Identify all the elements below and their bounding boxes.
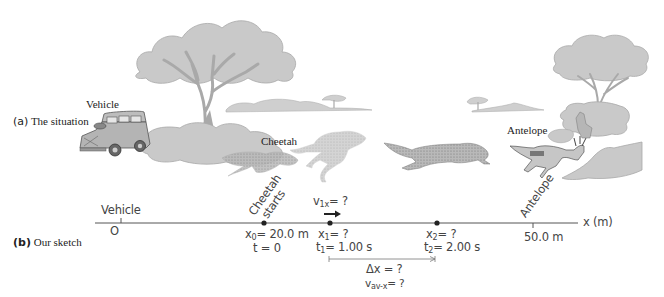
point-x0-dot [261, 220, 266, 225]
cheetah-leaping-icon [290, 131, 366, 182]
vehicle-icon [80, 111, 150, 156]
cheetah-label: Cheetah [261, 135, 297, 147]
panel-b-letter: (b) [13, 236, 31, 249]
origin-symbol: O [110, 224, 119, 238]
t2-label: t2= 2.00 s [424, 240, 480, 255]
origin-vehicle-label: Vehicle [101, 203, 141, 217]
panel-a-caption: (a) The situation [13, 115, 89, 128]
panel-b-title: Our sketch [34, 236, 82, 248]
point-x2-dot [434, 220, 439, 225]
v-average-label: vav-x= ? [365, 277, 404, 291]
x0-label: x0= 20.0 m [245, 227, 309, 242]
panel-a-title: The situation [31, 115, 89, 127]
t1-label: t1= 1.00 s [316, 240, 372, 255]
cheetah-running-icon [384, 143, 490, 170]
cheetah-crouching-icon [222, 152, 298, 176]
x-axis-label: x (m) [583, 215, 613, 229]
distant-bushes-icon [226, 95, 544, 112]
panel-b-caption: (b) Our sketch [13, 236, 82, 249]
delta-x-label: Δx = ? [366, 262, 403, 276]
antelope-position-value: 50.0 m [524, 230, 563, 244]
vehicle-label: Vehicle [86, 98, 119, 110]
velocity-arrow-icon [324, 211, 341, 218]
acacia-tree-large-icon [136, 21, 296, 130]
velocity-label: v1x= ? [313, 194, 348, 209]
t0-label: t = 0 [253, 241, 281, 255]
panel-a-letter: (a) [13, 115, 28, 128]
antelope-label: Antelope [507, 124, 547, 136]
point-x1-dot [327, 220, 332, 225]
